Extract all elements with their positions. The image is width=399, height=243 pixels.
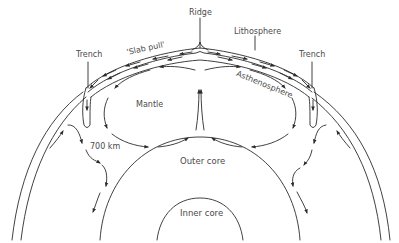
convection-diagram: Ridge Lithosphere Trench Trench 'Slab pu…: [0, 0, 399, 243]
deep-flow-left: [50, 125, 107, 212]
label-ridge: Ridge: [189, 9, 212, 17]
earth-surface-right: [312, 92, 390, 240]
plate-motion-arrows: [87, 52, 313, 110]
label-trench-right: Trench: [299, 51, 325, 59]
label-mantle: Mantle: [136, 101, 163, 109]
deep-flow-right: [293, 125, 350, 213]
outer-core-boundary: [100, 137, 300, 240]
diagram-drawing: [0, 0, 399, 243]
inner-core-boundary: [157, 198, 243, 240]
label-depth-700km: 700 km: [90, 143, 120, 151]
label-lithosphere: Lithosphere: [234, 28, 281, 36]
label-trench-left: Trench: [76, 51, 102, 59]
label-inner-core: Inner core: [180, 209, 223, 218]
label-outer-core: Outer core: [180, 157, 225, 166]
earth-surface-left: [12, 92, 86, 240]
